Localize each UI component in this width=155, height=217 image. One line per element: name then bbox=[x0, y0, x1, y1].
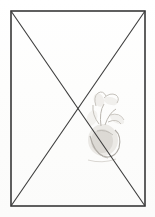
construction-drawing bbox=[0, 0, 155, 217]
drawing-canvas bbox=[0, 0, 155, 217]
